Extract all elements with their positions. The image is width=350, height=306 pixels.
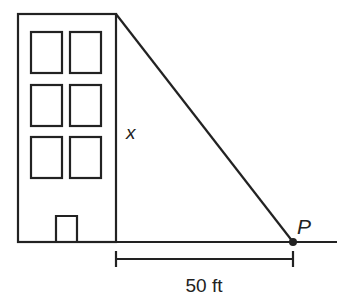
door (56, 216, 77, 242)
window (70, 32, 101, 73)
window (70, 85, 101, 126)
window (70, 137, 101, 178)
point-p-dot (289, 238, 297, 246)
distance-label: 50 ft (186, 275, 224, 296)
window (31, 32, 62, 73)
point-label: P (297, 215, 311, 238)
diagram-canvas: x P 50 ft (0, 0, 350, 306)
window (31, 85, 62, 126)
height-label: x (125, 122, 137, 143)
hypotenuse-line (116, 14, 293, 242)
window (31, 137, 62, 178)
